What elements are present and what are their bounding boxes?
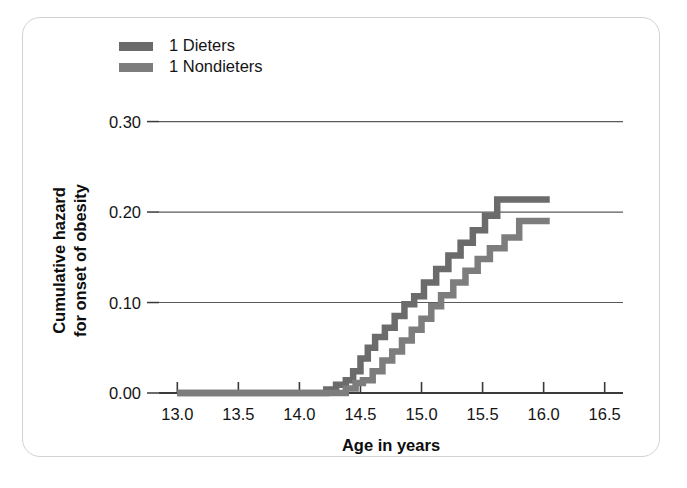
legend-label-0: 1 Dieters xyxy=(169,36,235,54)
legend-swatch-dieters xyxy=(119,42,153,51)
x-tick-label-3: 14.5 xyxy=(344,405,376,423)
x-tick-label-1: 13.5 xyxy=(222,405,254,423)
series-lines xyxy=(177,199,549,393)
x-axis-title: Age in years xyxy=(342,436,440,454)
chart-legend: 1 Dieters1 Nondieters xyxy=(119,36,263,75)
y-axis-title-line-0: Cumulative hazard xyxy=(50,187,68,334)
axes xyxy=(147,122,623,393)
series-line-0 xyxy=(177,199,549,393)
cumulative-hazard-step-chart: 1 Dieters1 Nondieters 13.013.514.014.515… xyxy=(23,18,661,458)
y-tick-label-3: 0.30 xyxy=(109,113,141,131)
y-tick-labels: 0.000.100.200.30 xyxy=(109,113,141,402)
y-axis-title-line-1: for onset of obesity xyxy=(71,183,89,337)
x-tick-label-2: 14.0 xyxy=(283,405,315,423)
legend-label-1: 1 Nondieters xyxy=(169,57,263,75)
gridlines xyxy=(159,122,623,303)
x-tick-labels: 13.013.514.014.515.015.516.016.5 xyxy=(161,405,620,423)
y-tick-label-1: 0.10 xyxy=(109,294,141,312)
x-tick-label-4: 15.0 xyxy=(405,405,437,423)
figure-card: 1 Dieters1 Nondieters 13.013.514.014.515… xyxy=(22,17,660,457)
legend-swatch-nondieters xyxy=(119,63,153,72)
x-tick-label-0: 13.0 xyxy=(161,405,193,423)
x-tick-label-5: 15.5 xyxy=(467,405,499,423)
x-tick-label-7: 16.5 xyxy=(589,405,621,423)
y-tick-label-2: 0.20 xyxy=(109,203,141,221)
x-tick-label-6: 16.0 xyxy=(528,405,560,423)
y-tick-label-0: 0.00 xyxy=(109,384,141,402)
